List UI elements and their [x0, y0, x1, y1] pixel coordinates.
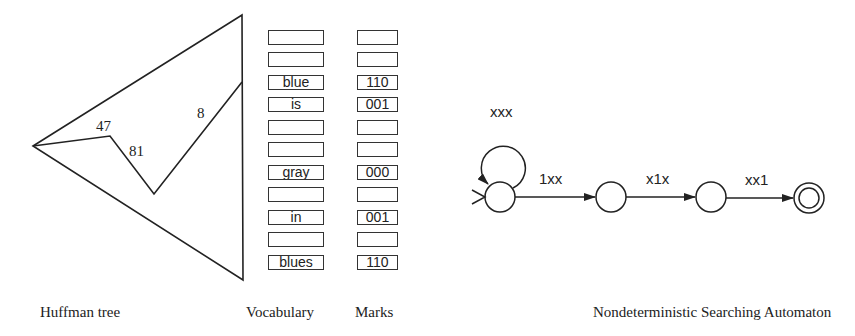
vocab-cell: is	[268, 97, 324, 112]
vocab-cell: in	[268, 210, 324, 225]
tree-label-47: 47	[96, 118, 112, 134]
transition-label-3: xx1	[745, 171, 768, 188]
self-loop-label: xxx	[490, 103, 513, 120]
initial-state-marker	[472, 190, 485, 204]
transition-label-2: x1x	[646, 170, 670, 187]
state-1	[596, 182, 626, 212]
mark-cell: 110	[357, 255, 398, 270]
final-state-inner	[799, 188, 819, 208]
vocab-cell	[268, 142, 324, 157]
mark-cell	[357, 142, 398, 157]
tree-label-81: 81	[129, 143, 144, 159]
automaton-caption: Nondeterministic Searching Automaton	[593, 304, 831, 321]
mark-cell: 000	[357, 165, 398, 180]
vocab-cell: blues	[268, 255, 324, 270]
tree-path	[33, 82, 242, 194]
huffman-tree-caption: Huffman tree	[40, 304, 120, 321]
mark-cell	[357, 232, 398, 247]
marks-caption: Marks	[355, 304, 393, 321]
vocabulary-caption: Vocabulary	[246, 304, 314, 321]
vocab-cell	[268, 52, 324, 67]
mark-cell: 001	[357, 210, 398, 225]
vocab-cell	[268, 232, 324, 247]
diagram-canvas: 47 81 8 xxx 1xx x1x xx1	[0, 0, 855, 336]
vocab-cell	[268, 187, 324, 202]
transition-label-1: 1xx	[539, 170, 563, 187]
mark-cell: 001	[357, 97, 398, 112]
vocab-cell: blue	[268, 75, 324, 90]
vocab-cell	[268, 120, 324, 135]
state-2	[696, 182, 726, 212]
mark-cell	[357, 187, 398, 202]
vocab-cell: gray	[268, 165, 324, 180]
mark-cell	[357, 52, 398, 67]
mark-cell: 110	[357, 75, 398, 90]
vocab-cell	[268, 30, 324, 45]
mark-cell	[357, 120, 398, 135]
mark-cell	[357, 30, 398, 45]
tree-label-8: 8	[197, 105, 205, 121]
state-0	[485, 182, 515, 212]
